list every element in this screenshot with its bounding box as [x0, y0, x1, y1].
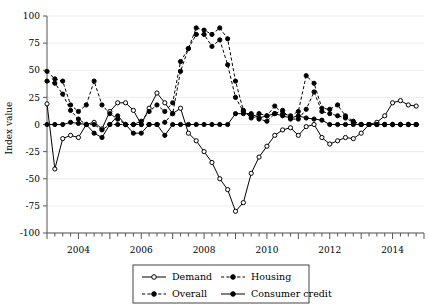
- data-point: [233, 209, 237, 213]
- x-tick-label: 2010: [255, 245, 278, 255]
- data-point: [68, 133, 72, 137]
- data-point: [116, 122, 120, 126]
- data-point: [359, 131, 363, 135]
- data-point: [202, 32, 206, 36]
- data-point: [336, 103, 340, 107]
- data-point: [218, 38, 222, 42]
- data-point: [163, 133, 167, 137]
- y-tick-label: 100: [23, 11, 40, 21]
- x-tick-label: 2006: [130, 245, 153, 255]
- data-point: [76, 121, 80, 125]
- data-point: [68, 108, 72, 112]
- data-point: [375, 122, 379, 126]
- data-point: [328, 122, 332, 126]
- data-point: [336, 122, 340, 126]
- plot-series-group: [45, 26, 418, 214]
- data-point: [241, 201, 245, 205]
- data-point: [123, 101, 127, 105]
- data-point: [304, 74, 308, 78]
- data-point: [108, 122, 112, 126]
- data-point: [265, 114, 269, 118]
- data-point: [383, 122, 387, 126]
- data-point: [265, 144, 269, 148]
- data-point: [343, 122, 347, 126]
- legend-marker: [231, 275, 236, 280]
- data-point: [92, 131, 96, 135]
- x-tick-label: 2014: [381, 245, 404, 255]
- data-point: [265, 119, 269, 123]
- data-point: [328, 112, 332, 116]
- data-point: [218, 26, 222, 30]
- data-point: [233, 112, 237, 116]
- data-point: [100, 128, 104, 132]
- legend-marker: [152, 292, 157, 297]
- data-point: [241, 112, 245, 116]
- series-housing: [45, 26, 418, 127]
- data-point: [155, 91, 159, 95]
- data-point: [320, 106, 324, 110]
- data-point: [249, 171, 253, 175]
- data-point: [288, 116, 292, 120]
- data-point: [68, 120, 72, 124]
- data-point: [45, 69, 49, 73]
- data-point: [359, 122, 363, 126]
- data-point: [123, 122, 127, 126]
- data-point: [257, 155, 261, 159]
- data-point: [202, 122, 206, 126]
- data-point: [68, 103, 72, 107]
- data-point: [202, 28, 206, 32]
- legend-marker: [231, 292, 236, 297]
- data-point: [178, 59, 182, 63]
- data-point: [296, 109, 300, 113]
- data-point: [116, 114, 120, 118]
- data-point: [61, 137, 65, 141]
- data-point: [139, 131, 143, 135]
- data-point: [210, 160, 214, 164]
- y-tick-label: -25: [26, 147, 41, 157]
- legend-label: Housing: [251, 271, 291, 282]
- data-point: [163, 109, 167, 113]
- data-point: [328, 107, 332, 111]
- data-point: [226, 63, 230, 67]
- legend-label: Overall: [172, 288, 207, 299]
- data-point: [398, 99, 402, 103]
- data-point: [53, 77, 57, 81]
- series-demand: [45, 91, 418, 213]
- data-point: [273, 104, 277, 108]
- data-point: [414, 104, 418, 108]
- series-overall: [45, 32, 418, 132]
- data-point: [218, 122, 222, 126]
- data-point: [186, 46, 190, 50]
- data-point: [233, 79, 237, 83]
- data-point: [343, 114, 347, 118]
- data-point: [336, 139, 340, 143]
- series-line: [47, 34, 416, 129]
- line-chart: -100-75-50-250255075100 2004200620082010…: [0, 0, 428, 306]
- data-point: [186, 122, 190, 126]
- data-point: [155, 122, 159, 126]
- x-tick-label: 2004: [67, 245, 90, 255]
- data-point: [226, 188, 230, 192]
- data-point: [218, 177, 222, 181]
- data-point: [406, 122, 410, 126]
- data-point: [343, 135, 347, 139]
- data-point: [194, 139, 198, 143]
- data-point: [288, 126, 292, 130]
- data-point: [273, 133, 277, 137]
- data-point: [383, 114, 387, 118]
- data-point: [320, 135, 324, 139]
- data-point: [406, 103, 410, 107]
- data-point: [390, 122, 394, 126]
- y-tick-label: -50: [26, 174, 41, 184]
- data-point: [76, 135, 80, 139]
- data-point: [233, 95, 237, 99]
- data-point: [53, 122, 57, 126]
- data-point: [304, 125, 308, 129]
- data-point: [328, 142, 332, 146]
- data-point: [194, 26, 198, 30]
- data-point: [273, 112, 277, 116]
- data-point: [336, 114, 340, 118]
- legend-label: Consumer credit: [251, 288, 332, 299]
- legend-marker: [152, 275, 157, 280]
- data-point: [312, 122, 316, 126]
